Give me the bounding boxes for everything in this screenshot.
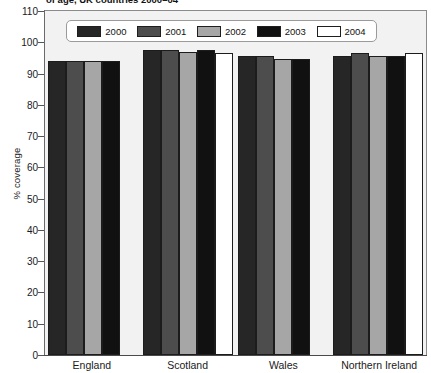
bar[interactable] [179,52,197,355]
x-axis-tick-labels: EnglandScotlandWalesNorthern Ireland [44,358,427,373]
y-axis-tick-mark [38,136,44,137]
bar[interactable] [238,56,256,355]
bar[interactable] [351,53,369,355]
bar-group [45,11,140,355]
bar-groups-layer [45,11,426,355]
x-axis-tick-label: England [44,358,140,373]
y-axis-tick-mark [38,261,44,262]
y-axis-tick-mark [38,355,44,356]
legend-label: 2003 [285,26,306,37]
bar[interactable] [292,59,310,355]
bar[interactable] [84,61,102,355]
bar[interactable] [387,56,405,355]
legend-swatch-icon [137,26,161,37]
legend-item[interactable]: 2000 [77,26,126,37]
y-axis-tick-mark [38,11,44,12]
legend-label: 2002 [225,26,246,37]
bar[interactable] [333,56,351,355]
legend-swatch-icon [197,26,221,37]
y-axis-tick-label: 50 [10,193,38,204]
bar[interactable] [66,61,84,355]
legend-label: 2004 [345,26,366,37]
bar[interactable] [405,53,423,355]
y-axis-tick-label: 60 [10,162,38,173]
bar[interactable] [48,61,66,355]
y-axis-tick-mark [38,105,44,106]
y-axis-tick-label: 110 [10,6,38,17]
y-axis-tick-mark [38,324,44,325]
y-axis-tick-label: 40 [10,224,38,235]
legend-swatch-icon [317,26,341,37]
x-axis-tick-label: Scotland [140,358,236,373]
y-axis-tick-label: 80 [10,99,38,110]
y-axis-tick-label: 0 [10,350,38,361]
y-axis-tick-mark [38,199,44,200]
y-axis-tick-label: 90 [10,68,38,79]
bar[interactable] [102,61,120,355]
legend-item[interactable]: 2004 [317,26,366,37]
legend-label: 2001 [165,26,186,37]
y-axis-tick-label: 10 [10,318,38,329]
y-axis-tick-mark [38,230,44,231]
y-axis-tick-label: 70 [10,131,38,142]
y-axis-tick-mark [38,74,44,75]
legend-item[interactable]: 2002 [197,26,246,37]
bar-group [236,11,331,355]
bar[interactable] [369,56,387,355]
bar[interactable] [256,56,274,355]
bar[interactable] [197,50,215,355]
bar[interactable] [215,53,233,355]
bar-chart-figure: of age, UK countries 2000–04 % coverage … [0,0,431,373]
y-axis-tick-label: 100 [10,37,38,48]
y-axis-tick-label: 30 [10,256,38,267]
chart-legend: 20002001200220032004 [66,20,377,42]
x-axis-line [44,355,427,356]
y-axis-tick-label: 20 [10,287,38,298]
bar-group [331,11,426,355]
bar[interactable] [274,59,292,355]
legend-swatch-icon [257,26,281,37]
bar-group [140,11,235,355]
bar[interactable] [161,50,179,355]
y-axis-tick-labels: 1101009080706050403020100 [8,0,38,373]
legend-item[interactable]: 2001 [137,26,186,37]
x-axis-tick-label: Northern Ireland [331,358,427,373]
y-axis-tick-mark [38,292,44,293]
legend-item[interactable]: 2003 [257,26,306,37]
bar[interactable] [143,50,161,355]
legend-label: 2000 [105,26,126,37]
y-axis-tick-mark [38,42,44,43]
legend-swatch-icon [77,26,101,37]
y-axis-tick-mark [38,167,44,168]
x-axis-tick-label: Wales [236,358,332,373]
chart-title: of age, UK countries 2000–04 [46,0,376,5]
